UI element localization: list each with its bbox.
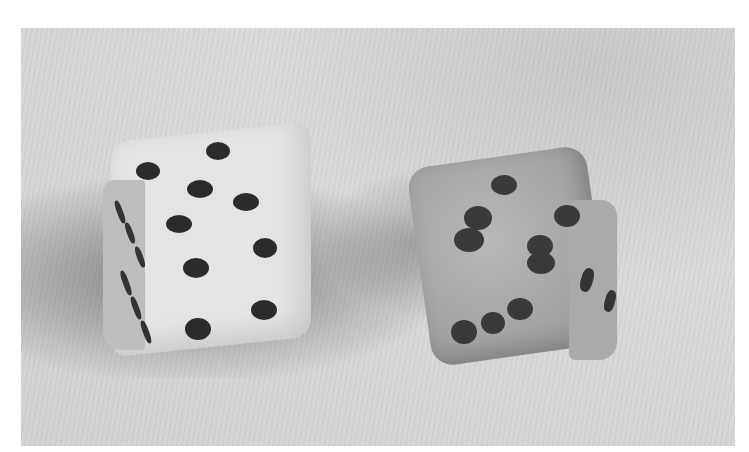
pip bbox=[491, 175, 517, 195]
pip bbox=[136, 162, 160, 180]
pip bbox=[253, 238, 277, 258]
pip bbox=[454, 228, 484, 252]
pip bbox=[166, 215, 192, 233]
pip bbox=[554, 205, 580, 227]
pip bbox=[233, 193, 259, 211]
pip bbox=[187, 180, 213, 198]
pip bbox=[464, 206, 492, 230]
pip bbox=[183, 258, 209, 278]
right-die bbox=[409, 140, 629, 380]
left-die-side bbox=[103, 180, 145, 350]
pip bbox=[451, 320, 477, 344]
pip bbox=[185, 318, 211, 340]
pip bbox=[481, 312, 505, 334]
dice-photo bbox=[21, 28, 735, 446]
pip bbox=[527, 252, 555, 274]
pip bbox=[251, 300, 277, 320]
pip bbox=[206, 142, 230, 160]
left-die bbox=[103, 120, 323, 360]
pip bbox=[507, 298, 533, 320]
